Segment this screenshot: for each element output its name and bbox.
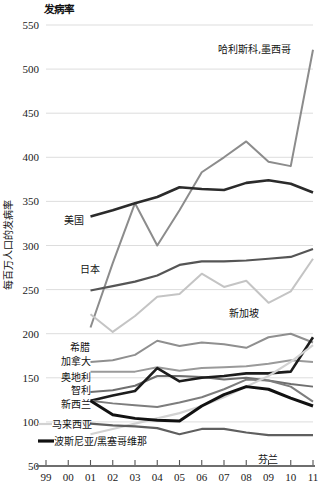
series-label: 新加坡	[229, 307, 259, 319]
y-tick-label: 150	[23, 372, 40, 384]
series-label: 智利	[71, 384, 91, 396]
data-series-lines	[91, 50, 314, 435]
y-tick-label: 250	[23, 284, 40, 296]
series-label: 美国	[64, 214, 84, 226]
x-tick-label: 09	[263, 471, 275, 483]
y-tick-label: 550	[23, 19, 40, 31]
series-line	[91, 334, 314, 362]
series-line	[91, 259, 314, 332]
y-tick-label: 450	[23, 107, 40, 119]
y-axis-label: 每百万人口的发病率	[2, 200, 14, 290]
x-tick-label: 03	[130, 471, 142, 483]
x-tick-label: 99	[41, 471, 53, 483]
series-label: 马来西亚	[52, 419, 92, 430]
series-inline-labels: 哈利斯科,墨西哥美国日本新加坡希腊加拿大奥地利智利新西兰马来西亚波斯尼亚/黑塞哥…	[52, 43, 291, 465]
series-label: 希腊	[70, 341, 90, 353]
x-tick-label: 00	[63, 471, 75, 483]
y-tick-label: 300	[23, 240, 40, 252]
x-axis-tick-labels: 99000102030405060708091011	[41, 471, 319, 483]
series-label: 日本	[80, 263, 100, 275]
series-line	[91, 180, 314, 216]
y-tick-label: 400	[23, 151, 40, 163]
x-tick-label: 02	[107, 471, 118, 483]
series-label: 新西兰	[61, 398, 91, 410]
series-line	[91, 424, 314, 435]
series-line	[91, 249, 314, 290]
series-label: 奥地利	[61, 371, 91, 383]
series-label: 芬兰	[258, 453, 278, 465]
x-tick-label: 06	[196, 471, 208, 483]
chart-svg: 50100150200250300350400450500550 9900010…	[0, 0, 327, 497]
x-tick-label: 01	[85, 471, 96, 483]
x-tick-label: 05	[174, 471, 186, 483]
x-tick-label: 08	[241, 471, 253, 483]
chart-title: 发病率	[43, 3, 75, 15]
y-tick-label: 500	[23, 63, 40, 75]
y-tick-label: 100	[23, 416, 40, 428]
x-tick-label: 04	[152, 471, 164, 483]
x-tick-label: 07	[219, 471, 231, 483]
x-tick-label: 10	[285, 471, 297, 483]
y-tick-label: 350	[23, 195, 40, 207]
x-tick-label: 11	[308, 471, 319, 483]
incidence-rate-chart: 50100150200250300350400450500550 9900010…	[0, 0, 327, 497]
series-label: 波斯尼亚/黑塞哥维那	[54, 435, 147, 447]
series-label: 加拿大	[61, 355, 91, 367]
series-label: 哈利斯科,墨西哥	[218, 43, 291, 55]
y-tick-label: 200	[23, 328, 40, 340]
y-axis-tick-labels: 50100150200250300350400450500550	[23, 19, 40, 472]
